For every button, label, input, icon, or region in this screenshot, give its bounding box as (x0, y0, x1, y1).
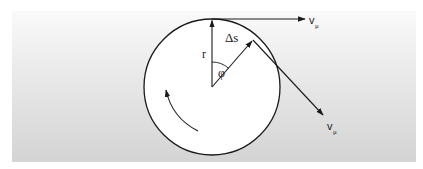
velocity-top-label: v μ (309, 14, 319, 30)
svg-text:μ: μ (333, 128, 337, 136)
velocity-tangent-label: v μ (327, 120, 337, 136)
angle-label: φ (218, 66, 225, 80)
wheel-diagram: r Δs φ v μ v μ (0, 0, 423, 169)
radius-label: r (202, 47, 206, 61)
arc-length-label: Δs (225, 30, 238, 45)
svg-text:μ: μ (315, 22, 319, 30)
